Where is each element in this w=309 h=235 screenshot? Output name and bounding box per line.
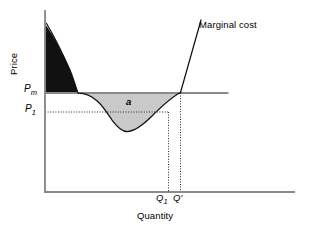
quantity-q1-tick-label: Q1	[156, 193, 168, 205]
black-deadweight-region	[45, 24, 78, 93]
y-axis-title: Price	[9, 53, 19, 75]
quantity-qprime-tick-label: Q'	[173, 193, 182, 203]
price-p1-subscript: 1	[32, 108, 36, 117]
marginal-cost-label: Marginal cost	[199, 20, 257, 30]
price-pm-subscript: m	[31, 88, 37, 97]
quantity-q1-subscript: 1	[163, 197, 167, 206]
area-a-annotation: a	[126, 97, 131, 107]
price-p1-base: P	[25, 103, 32, 114]
price-pm-tick-label: Pm	[24, 84, 37, 97]
chart-canvas	[0, 0, 309, 235]
x-axis-title: Quantity	[137, 211, 173, 221]
marginal-cost-figure: Price Quantity Marginal cost Pm P1 Q1 Q'…	[0, 0, 309, 235]
price-pm-base: P	[24, 83, 31, 94]
price-p1-tick-label: P1	[25, 104, 36, 117]
